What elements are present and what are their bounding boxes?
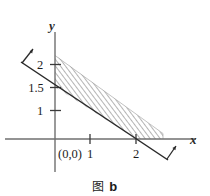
figure-caption-label: b — [109, 179, 118, 194]
figure-caption: 图 b — [0, 180, 210, 194]
y-tick-label-1point5: 1.5 — [28, 81, 44, 95]
y-tick-label-1: 1 — [37, 104, 43, 118]
graph-plot: x y 2 1.5 1 (0,0) 1 2 — [0, 0, 210, 196]
shade-arrow-right-icon — [167, 146, 176, 159]
origin-label: (0,0) — [58, 147, 82, 161]
figure-container: x y 2 1.5 1 (0,0) 1 2 图 b — [0, 0, 210, 196]
x-axis-label: x — [189, 132, 197, 147]
x-tick-label-2: 2 — [133, 147, 139, 161]
x-tick-label-1: 1 — [87, 147, 93, 161]
y-tick-label-2: 2 — [37, 58, 43, 72]
shade-arrow-left-icon — [22, 49, 33, 63]
shaded-region — [55, 55, 163, 139]
figure-caption-glyph: 图 — [92, 180, 105, 194]
y-axis-label: y — [47, 18, 55, 33]
